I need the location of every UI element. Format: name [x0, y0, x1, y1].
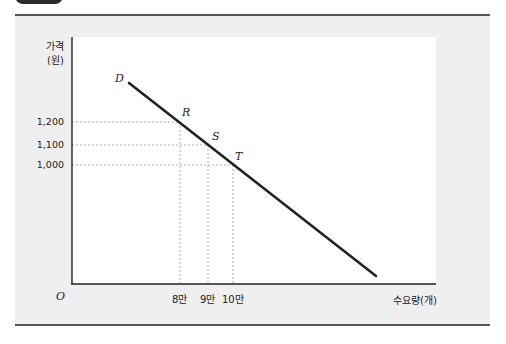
x-tick-90k: 9만 — [200, 291, 215, 306]
origin-label: O — [56, 290, 65, 303]
y-axis-label-line1: 가격 — [46, 38, 64, 53]
y-tick-1000: 1,000 — [14, 159, 64, 170]
curve-label-d: D — [115, 72, 124, 85]
demand-curve — [129, 83, 376, 276]
y-tick-1100: 1,100 — [14, 139, 64, 150]
point-label-t: T — [235, 150, 242, 163]
x-axis-label: 수요량(개) — [393, 292, 437, 307]
y-axis-label-line2: (원) — [47, 52, 64, 67]
point-label-s: S — [212, 130, 220, 143]
point-label-r: R — [182, 106, 190, 119]
x-tick-80k: 8만 — [172, 291, 187, 306]
x-tick-100k: 10만 — [222, 291, 244, 306]
y-tick-1200: 1,200 — [14, 116, 64, 127]
